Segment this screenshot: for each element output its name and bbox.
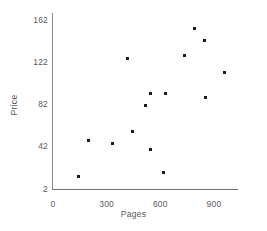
data-point: [111, 142, 114, 145]
data-point: [131, 130, 134, 133]
data-points-layer: [0, 0, 267, 231]
x-axis-title-text: Pages: [0, 209, 267, 219]
data-point: [162, 171, 165, 174]
y-axis-title: Price: [6, 88, 18, 128]
data-point: [204, 96, 207, 99]
data-point: [87, 139, 90, 142]
data-point: [164, 92, 167, 95]
data-point: [144, 104, 147, 107]
data-point: [223, 71, 226, 74]
scatter-plot: 24282122162 0300600900 Price Pages: [0, 0, 267, 231]
data-point: [149, 92, 152, 95]
data-point: [149, 148, 152, 151]
y-axis-title-text: Price: [9, 85, 19, 125]
data-point: [193, 27, 196, 30]
data-point: [126, 57, 129, 60]
data-point: [203, 39, 206, 42]
data-point: [77, 175, 80, 178]
data-point: [183, 54, 186, 57]
